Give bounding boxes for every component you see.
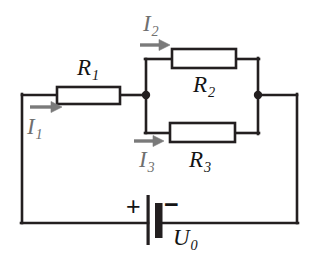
resistor-r3-label: R3 <box>189 148 210 171</box>
battery-minus-sign: − <box>164 192 179 217</box>
circuit-schematic-canvas <box>0 0 314 266</box>
resistor-r3-label-main: R <box>189 147 203 172</box>
resistor-r2-body <box>172 49 236 68</box>
voltage-source-label-subscript: 0 <box>190 237 197 253</box>
resistor-r1-body <box>57 87 120 104</box>
current-i3-label: I3 <box>139 148 154 171</box>
resistor-r3-body <box>170 123 235 142</box>
junction-node-b-dot <box>254 91 262 99</box>
current-i3-label-subscript: 3 <box>148 159 155 175</box>
resistor-r2-label-subscript: 2 <box>208 84 215 100</box>
junction-node-a-dot <box>142 91 150 99</box>
resistor-r1-label: R1 <box>77 56 98 79</box>
current-arrow-i3 <box>134 136 164 147</box>
voltage-source-label: U0 <box>173 226 197 249</box>
current-i2-label-subscript: 2 <box>152 23 159 39</box>
resistor-r1-label-subscript: 1 <box>92 67 99 83</box>
current-i1-label-subscript: 1 <box>36 126 43 142</box>
battery-positive-plate <box>147 195 150 245</box>
battery-negative-plate <box>155 203 163 238</box>
circuit-diagram: R1 R2 R3 I1 I2 I3 U0 + − <box>0 0 314 266</box>
current-i3-label-main: I <box>139 147 147 172</box>
current-arrow-i2 <box>140 40 170 51</box>
resistor-r1-label-main: R <box>77 55 91 80</box>
battery-plus-sign: + <box>126 194 141 219</box>
resistor-r2-label: R2 <box>193 73 214 96</box>
resistor-r3-label-subscript: 3 <box>204 159 211 175</box>
voltage-source-u0 <box>147 195 163 245</box>
voltage-source-label-main: U <box>173 225 190 250</box>
resistor-r2-label-main: R <box>193 72 207 97</box>
current-i1-label: I1 <box>27 115 42 138</box>
current-i1-label-main: I <box>27 114 35 139</box>
current-i2-label-main: I <box>143 11 151 36</box>
current-i2-label: I2 <box>143 12 158 35</box>
